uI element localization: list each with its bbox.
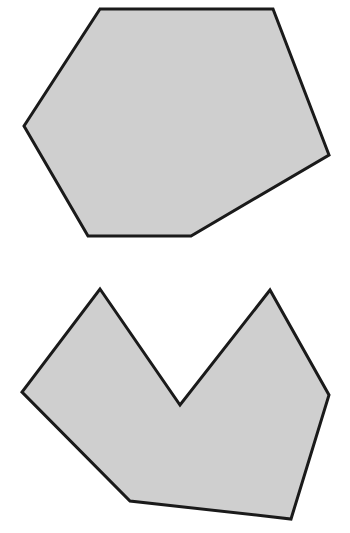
concave-heptagon-shape	[22, 289, 329, 519]
convex-hexagon-shape	[24, 9, 329, 236]
polygon-diagram	[0, 0, 350, 533]
